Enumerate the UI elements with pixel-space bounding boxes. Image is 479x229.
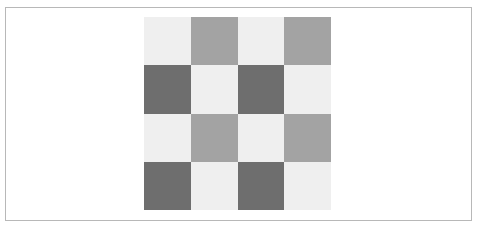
grid-cell-light xyxy=(191,65,238,113)
grid-cell-light xyxy=(284,162,331,210)
grid-cell-dark xyxy=(238,162,285,210)
grid-cell-light xyxy=(191,162,238,210)
grid-cell-mid xyxy=(191,114,238,162)
grid-cell-light xyxy=(144,17,191,65)
grid-cell-dark xyxy=(144,65,191,113)
grid-cell-dark xyxy=(144,162,191,210)
checkerboard-grid xyxy=(144,17,331,210)
grid-cell-light xyxy=(284,65,331,113)
grid-cell-light xyxy=(238,17,285,65)
grid-cell-light xyxy=(144,114,191,162)
grid-cell-dark xyxy=(238,65,285,113)
grid-cell-light xyxy=(238,114,285,162)
grid-cell-mid xyxy=(284,114,331,162)
grid-cell-mid xyxy=(191,17,238,65)
grid-cell-mid xyxy=(284,17,331,65)
